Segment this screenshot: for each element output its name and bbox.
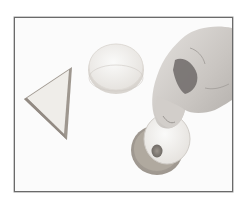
hand [152,26,232,128]
sandwich-photo [15,18,232,191]
cut-out-hole [152,145,163,158]
photo-frame [14,17,233,192]
triangle-sandwich [24,67,72,140]
round-sandwich [88,44,144,94]
